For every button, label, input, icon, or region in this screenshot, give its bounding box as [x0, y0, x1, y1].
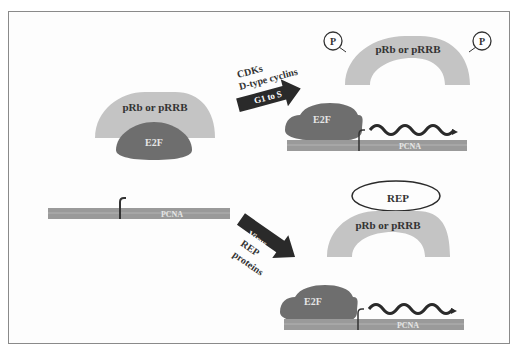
e2f-label-top: E2F: [313, 114, 331, 125]
dna-strand-bottom: [284, 319, 464, 330]
pocket-label-initial: pRb or pRRB: [122, 101, 188, 113]
pocket-label-phosphorylated: pRb or pRRB: [375, 43, 441, 55]
phosphate-right-label: P: [479, 36, 485, 47]
dna-strand-initial: [48, 208, 230, 219]
mrna-transcript-top: [370, 126, 458, 136]
e2f-label-initial: E2F: [145, 137, 163, 148]
diagram-canvas: pRb or pRRB E2F PCNA G1 to S CDKs D-type…: [0, 0, 522, 359]
dna-label-top: PCNA: [399, 142, 421, 151]
pocket-label-rep-bound: pRb or pRRB: [355, 219, 421, 231]
mrna-transcript-bottom: [369, 305, 457, 315]
dna-label-bottom: PCNA: [397, 321, 419, 330]
pocket-protein-rep-bound: [327, 211, 450, 257]
dna-strand-top: [287, 140, 467, 151]
dna-label-initial: PCNA: [161, 210, 183, 219]
rep-label: REP: [387, 192, 409, 204]
e2f-label-bottom: E2F: [304, 296, 322, 307]
phosphate-left-label: P: [330, 36, 336, 47]
